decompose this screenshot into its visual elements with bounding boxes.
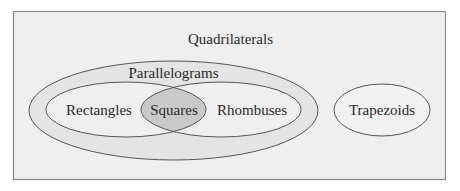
- quadrilaterals-label: Quadrilaterals: [188, 31, 273, 47]
- quadrilaterals-venn-diagram: Quadrilaterals Parallelograms Rectangles…: [0, 0, 460, 191]
- parallelograms-label: Parallelograms: [129, 65, 219, 81]
- squares-label: Squares: [150, 102, 198, 118]
- rhombuses-label: Rhombuses: [217, 102, 287, 118]
- trapezoids-label: Trapezoids: [349, 102, 415, 118]
- rectangles-label: Rectangles: [66, 102, 132, 118]
